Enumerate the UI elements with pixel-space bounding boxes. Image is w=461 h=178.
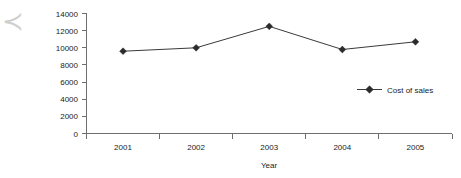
series-cost-of-sales	[120, 23, 419, 55]
x-tick-marks	[87, 134, 453, 140]
data-point-marker	[412, 38, 419, 45]
data-point-marker	[193, 44, 200, 51]
chart-legend: Cost of sales	[357, 86, 433, 95]
y-tick-label: 4000	[60, 95, 78, 104]
y-tick-label: 14000	[56, 10, 79, 19]
chart-canvas: 14000 12000 10000 8000 6000 4000 2000 0 …	[0, 0, 461, 178]
y-tick-label: 8000	[60, 61, 78, 70]
y-tick-label: 12000	[56, 27, 79, 36]
y-tick-marks	[82, 14, 87, 134]
page-edge-artifact: ≺	[2, 8, 20, 34]
y-tick-labels: 14000 12000 10000 8000 6000 4000 2000 0	[56, 10, 79, 139]
legend-marker-diamond	[366, 86, 374, 94]
x-tick-label: 2005	[407, 143, 425, 152]
y-tick-label: 6000	[60, 78, 78, 87]
x-tick-label: 2004	[333, 143, 351, 152]
data-point-marker	[266, 23, 273, 30]
y-tick-label: 2000	[60, 112, 78, 121]
data-point-marker	[120, 48, 127, 55]
y-tick-label: 0	[74, 130, 79, 139]
x-axis-title: Year	[261, 161, 278, 170]
data-point-marker	[339, 46, 346, 53]
x-tick-label: 2003	[260, 143, 278, 152]
x-tick-labels: 2001 2002 2003 2004 2005	[114, 143, 425, 152]
x-tick-label: 2002	[187, 143, 205, 152]
x-tick-label: 2001	[114, 143, 132, 152]
legend-entry-label: Cost of sales	[387, 86, 433, 95]
line-chart: ≺ 14000 12000 10000 8000 6000 4000 2000 …	[0, 0, 461, 178]
y-tick-label: 10000	[56, 44, 79, 53]
